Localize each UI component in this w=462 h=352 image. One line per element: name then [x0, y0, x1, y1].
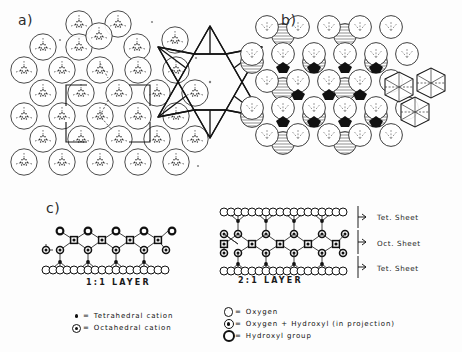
panel-c-one-to-one-layer [42, 228, 175, 274]
legend-label-tetrahedral-cation: Tetrahedral cation [94, 312, 174, 320]
legend-equals: = [83, 312, 90, 320]
legend-equals: = [235, 308, 242, 316]
sheet-label-tet-bottom: Tet. Sheet [377, 264, 419, 273]
panel-label-b: b) [281, 12, 296, 28]
one-to-one-basal-oxygen-row [42, 266, 169, 274]
two-to-one-top-bonds [231, 215, 329, 231]
one-to-one-tetrahedral-cations [58, 260, 146, 264]
panel-a-tetrahedral-sheet [11, 11, 262, 175]
two-to-one-octahedral-cations [221, 241, 340, 248]
legend-item-oxygen-hydroxyl: = Oxygen + Hydroxyl (in projection) [222, 318, 395, 330]
legend-label-oxygen-hydroxyl: Oxygen + Hydroxyl (in projection) [246, 320, 395, 328]
legend-label-hydroxyl: Hydroxyl group [246, 332, 312, 340]
legend-item-hydroxyl: = Hydroxyl group [222, 330, 395, 342]
legend-item-octahedral-cation: = Octahedral cation [70, 322, 173, 334]
one-to-one-layer-caption: 1:1 LAYER [86, 278, 151, 287]
two-to-one-lower-oxhydroxyl-row [221, 250, 347, 257]
legend-item-tetrahedral-cation: = Tetrahedral cation [70, 310, 173, 322]
tetrahedral-circle-net [11, 11, 208, 175]
two-to-one-bottom-tetrahedral-cations [236, 262, 324, 266]
panel-label-c: c) [46, 200, 60, 216]
oxygen-hydroxyl-icon [222, 318, 235, 330]
one-to-one-octahedral-cations [71, 237, 162, 244]
legend-equals: = [235, 320, 242, 328]
panel-b-octahedral-sheet [241, 16, 445, 155]
panel-c-two-to-one-layer [210, 206, 366, 278]
legend-label-oxygen: Oxygen [246, 308, 278, 316]
hydroxyl-icon [222, 330, 235, 342]
two-to-one-top-oxygen-row [220, 208, 347, 216]
legend-equals: = [235, 332, 242, 340]
two-to-one-upper-oxhydroxyl-row [221, 231, 349, 238]
legend-equals: = [83, 324, 90, 332]
legend-item-oxygen: = Oxygen [222, 306, 395, 318]
one-to-one-bonds [46, 231, 168, 268]
oxygen-icon [222, 306, 235, 318]
figure-canvas [0, 0, 462, 352]
tetrahedral-cation-icon [70, 310, 83, 322]
one-to-one-oxygen-hydroxyl-row [43, 247, 170, 254]
sheet-label-oct: Oct. Sheet [377, 239, 421, 248]
octahedral-cation-icon [70, 322, 83, 334]
two-to-one-bottom-oxygen-row [220, 267, 347, 275]
sheet-label-tet-top: Tet. Sheet [377, 213, 419, 222]
legend-anions: = Oxygen = Oxygen + Hydroxyl (in project… [222, 306, 395, 342]
one-to-one-hydroxyl-row [57, 228, 176, 235]
hexagon-center-dot [209, 81, 211, 83]
legend-label-octahedral-cation: Octahedral cation [94, 324, 172, 332]
two-to-one-top-tetrahedral-cations [236, 219, 324, 223]
two-to-one-layer-caption: 2:1 LAYER [238, 276, 303, 285]
sheet-brackets [358, 206, 366, 278]
panel-label-a: a) [18, 12, 33, 28]
legend-cations: = Tetrahedral cation = Octahedral cation [70, 310, 173, 334]
